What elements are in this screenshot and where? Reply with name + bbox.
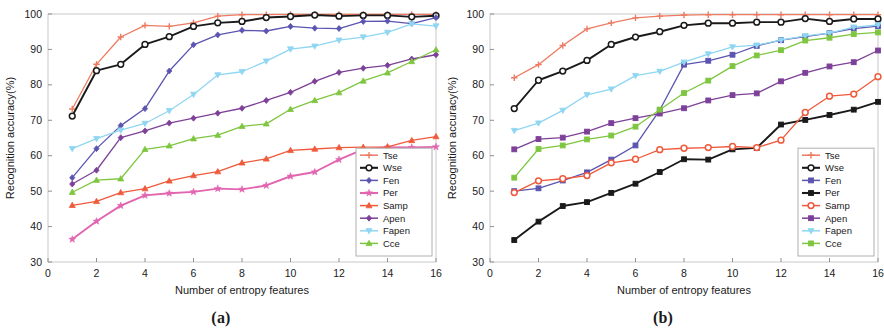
data-marker [802, 110, 808, 116]
data-marker [681, 22, 687, 28]
data-marker [263, 15, 269, 21]
data-marker [633, 34, 639, 40]
data-marker [851, 60, 856, 65]
data-marker [657, 170, 662, 175]
data-marker [779, 122, 784, 127]
plot-b: 024681012141630405060708090100Number of … [442, 0, 884, 329]
data-marker [536, 178, 542, 184]
data-marker [809, 191, 814, 196]
data-marker [778, 19, 784, 25]
data-marker [560, 143, 565, 148]
data-marker [706, 98, 711, 103]
data-marker [876, 99, 881, 104]
data-marker [682, 106, 687, 111]
data-marker [536, 77, 542, 83]
data-marker [560, 135, 565, 140]
data-marker [779, 48, 784, 53]
data-marker [633, 181, 638, 186]
data-marker [536, 137, 541, 142]
data-marker [706, 58, 711, 63]
legend-label: Fen [825, 175, 841, 186]
data-marker [876, 30, 881, 35]
data-marker [118, 61, 124, 67]
data-marker [802, 16, 808, 22]
legend-label: Per [383, 187, 398, 198]
data-marker [827, 113, 832, 118]
data-marker [608, 42, 614, 48]
data-marker [609, 133, 614, 138]
data-marker [512, 238, 517, 243]
y-tick-label: 60 [30, 149, 42, 161]
y-tick-label: 30 [30, 256, 42, 268]
x-tick-label: 14 [824, 267, 836, 279]
data-marker [808, 165, 814, 171]
x-tick-label: 12 [775, 267, 787, 279]
x-tick-label: 6 [633, 267, 639, 279]
data-marker [809, 241, 814, 246]
data-marker [778, 137, 784, 143]
legend-label: Apen [383, 213, 405, 224]
legend-label: Cce [825, 238, 842, 249]
y-tick-label: 40 [30, 220, 42, 232]
x-tick-label: 0 [487, 267, 493, 279]
data-marker [511, 190, 517, 196]
data-marker [875, 16, 881, 22]
data-marker [808, 203, 814, 209]
data-marker [827, 19, 833, 25]
x-tick-label: 8 [681, 267, 687, 279]
data-marker [875, 74, 881, 80]
data-marker [584, 173, 590, 179]
data-marker [560, 68, 566, 74]
y-axis-label: Recognition accuracy(%) [4, 77, 16, 199]
data-marker [754, 145, 760, 151]
data-marker [851, 16, 857, 22]
data-marker [827, 93, 833, 99]
plot-a: 024681012141630405060708090100Number of … [0, 0, 442, 329]
data-marker [730, 93, 735, 98]
x-tick-label: 0 [45, 267, 51, 279]
data-marker [730, 20, 736, 26]
data-marker [851, 107, 856, 112]
data-marker [536, 186, 541, 191]
legend-label: Samp [825, 200, 850, 211]
x-tick-label: 16 [872, 267, 884, 279]
data-marker [215, 20, 221, 26]
data-marker [754, 19, 760, 25]
data-marker [803, 38, 808, 43]
y-tick-label: 80 [30, 78, 42, 90]
data-marker [633, 156, 639, 162]
x-tick-label: 4 [142, 267, 148, 279]
data-marker [609, 191, 614, 196]
y-tick-label: 70 [472, 114, 484, 126]
legend-label: Fapen [825, 225, 852, 236]
data-marker [876, 48, 881, 53]
data-marker [69, 113, 75, 119]
x-tick-label: 16 [430, 267, 442, 279]
data-marker [191, 24, 197, 30]
data-marker [336, 13, 342, 19]
data-marker [560, 204, 565, 209]
legend-label: Tse [383, 150, 398, 161]
data-marker [633, 116, 638, 121]
data-marker [512, 175, 517, 180]
x-tick-label: 8 [239, 267, 245, 279]
data-marker [779, 79, 784, 84]
panel-b-caption: (b) [442, 309, 884, 327]
x-tick-label: 10 [285, 267, 297, 279]
data-marker [585, 137, 590, 142]
data-marker [633, 143, 638, 148]
x-axis-label: Number of entropy features [617, 284, 751, 296]
x-tick-label: 2 [536, 267, 542, 279]
data-marker [754, 53, 759, 58]
panel-a: 024681012141630405060708090100Number of … [0, 0, 442, 329]
data-marker [608, 160, 614, 166]
data-marker [705, 20, 711, 26]
panel-a-caption: (a) [0, 309, 442, 327]
data-marker [809, 216, 814, 221]
data-marker [512, 147, 517, 152]
data-marker [584, 58, 590, 64]
data-marker [536, 219, 541, 224]
y-tick-label: 50 [472, 185, 484, 197]
data-marker [730, 64, 735, 69]
data-marker [803, 118, 808, 123]
